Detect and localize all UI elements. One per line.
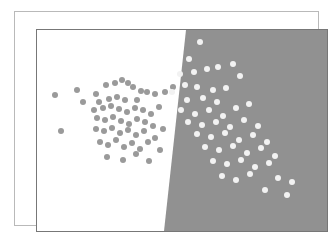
- data-point: [102, 117, 109, 124]
- data-point: [118, 118, 125, 125]
- data-point: [191, 69, 198, 76]
- data-point: [162, 89, 169, 96]
- data-point: [204, 66, 211, 73]
- data-point: [230, 61, 237, 68]
- data-point: [210, 158, 217, 165]
- data-point: [124, 109, 131, 116]
- data-point: [74, 87, 81, 94]
- data-point: [255, 123, 262, 130]
- data-point: [93, 126, 100, 133]
- data-point: [182, 82, 189, 89]
- data-point: [202, 144, 209, 151]
- data-point: [106, 96, 113, 103]
- data-point: [125, 127, 132, 134]
- data-point: [160, 126, 167, 133]
- data-point: [272, 153, 279, 160]
- data-point: [213, 119, 220, 126]
- data-point: [194, 131, 201, 138]
- data-point: [52, 92, 59, 99]
- data-point: [144, 89, 151, 96]
- data-point: [91, 107, 98, 114]
- data-point: [224, 161, 231, 168]
- data-point: [206, 107, 213, 114]
- scatter-plot-area: [37, 30, 327, 231]
- data-point: [112, 80, 119, 87]
- data-point: [103, 82, 110, 89]
- data-point: [148, 111, 155, 118]
- data-point: [152, 91, 159, 98]
- data-point: [289, 179, 296, 186]
- data-point: [80, 99, 87, 106]
- data-point: [275, 175, 282, 182]
- data-point: [185, 119, 192, 126]
- data-point: [132, 105, 139, 112]
- data-point: [121, 144, 128, 151]
- data-point: [192, 111, 199, 118]
- data-point: [138, 88, 145, 95]
- data-point: [129, 140, 136, 147]
- data-point: [105, 142, 112, 149]
- data-point: [114, 94, 121, 101]
- data-point: [145, 139, 152, 146]
- data-point: [233, 177, 240, 184]
- data-point: [216, 147, 223, 154]
- data-point: [200, 95, 207, 102]
- data-point: [236, 137, 243, 144]
- data-point: [126, 121, 133, 128]
- data-point: [142, 119, 149, 126]
- data-point: [241, 117, 248, 124]
- data-point: [170, 84, 177, 91]
- data-point: [97, 139, 104, 146]
- data-point: [137, 146, 144, 153]
- data-point: [133, 151, 140, 158]
- data-point: [284, 192, 291, 199]
- figure-root: [0, 0, 333, 239]
- data-point: [125, 80, 132, 87]
- data-point: [214, 99, 221, 106]
- data-point: [156, 104, 163, 111]
- data-point: [101, 128, 108, 135]
- data-point: [266, 160, 273, 167]
- data-point: [237, 73, 244, 80]
- data-point: [120, 157, 127, 164]
- data-point: [104, 154, 111, 161]
- data-point: [238, 157, 245, 164]
- data-point: [230, 143, 237, 150]
- inner-frame: [36, 29, 328, 232]
- data-point: [116, 106, 123, 113]
- data-point: [227, 124, 234, 131]
- data-point: [178, 107, 185, 114]
- data-point: [233, 105, 240, 112]
- data-point: [94, 115, 101, 122]
- data-point: [117, 130, 124, 137]
- data-point: [141, 128, 148, 135]
- data-point: [177, 71, 184, 78]
- data-point: [244, 150, 251, 157]
- data-point: [219, 173, 226, 180]
- data-point: [150, 123, 157, 130]
- data-point: [199, 122, 206, 129]
- data-point: [184, 97, 191, 104]
- data-point: [96, 99, 103, 106]
- outer-frame: [14, 11, 319, 226]
- data-point: [58, 128, 65, 135]
- data-point: [109, 125, 116, 132]
- data-point: [252, 164, 259, 171]
- data-point: [246, 101, 253, 108]
- data-point: [197, 39, 204, 46]
- data-point: [134, 116, 141, 123]
- data-point: [146, 158, 153, 165]
- data-point: [258, 145, 265, 152]
- data-point: [215, 64, 222, 71]
- data-point: [247, 171, 254, 178]
- data-point: [130, 84, 137, 91]
- data-point: [223, 85, 230, 92]
- data-point: [140, 107, 147, 114]
- data-point: [113, 137, 120, 144]
- data-point: [220, 113, 227, 120]
- data-point: [262, 187, 269, 194]
- data-points-layer: [37, 30, 327, 231]
- data-point: [134, 97, 141, 104]
- data-point: [119, 77, 126, 84]
- data-point: [264, 139, 271, 146]
